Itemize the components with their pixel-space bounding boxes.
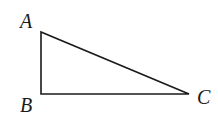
vertex-label-a: A <box>18 10 33 32</box>
triangle-diagram: A B C <box>0 0 218 125</box>
vertex-label-c: C <box>197 86 211 108</box>
triangle-abc <box>41 32 189 94</box>
vertex-label-b: B <box>20 94 32 116</box>
triangle-svg: A B C <box>0 0 218 125</box>
